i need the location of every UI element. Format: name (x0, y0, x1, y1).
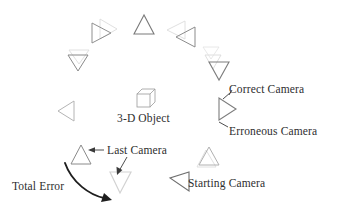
camera-ring-diagram: 3-D Object Correct Camera Erroneous Came… (0, 0, 338, 210)
label-last-camera: Last Camera (107, 144, 167, 156)
label-total-error: Total Error (12, 180, 64, 192)
figure-root: 3-D Object Correct Camera Erroneous Came… (0, 0, 338, 210)
label-correct-camera: Correct Camera (229, 83, 304, 95)
label-erroneous-camera: Erroneous Camera (229, 125, 317, 137)
label-3d-object: 3-D Object (117, 112, 171, 125)
label-starting-camera: Starting Camera (188, 177, 265, 190)
